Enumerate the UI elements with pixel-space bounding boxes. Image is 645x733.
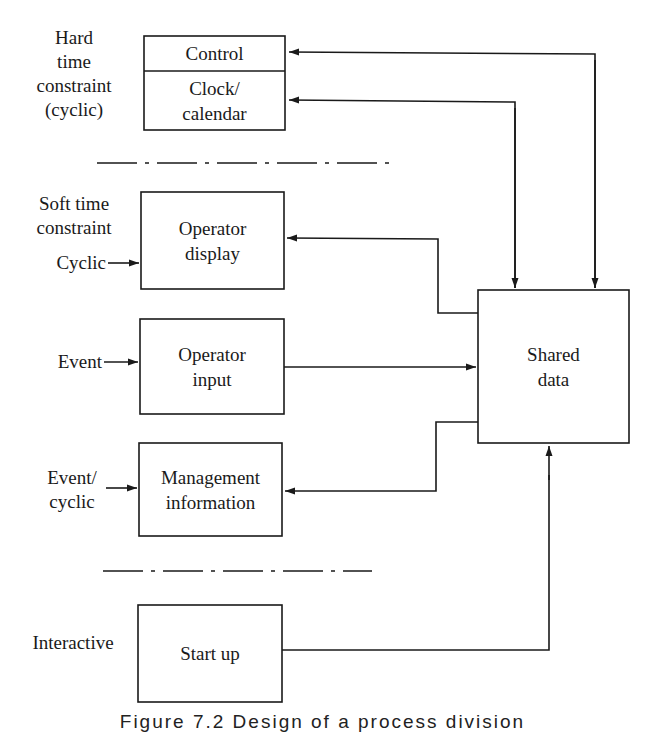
group-label-interactive: Interactive: [18, 631, 128, 655]
input-label-event: Event: [38, 350, 102, 374]
box-label-operator-input: Operator input: [140, 319, 284, 414]
edge-shared-to-management: [285, 422, 478, 491]
edge-shared-to-clock: [289, 100, 515, 288]
box-label-operator-display: Operator display: [141, 192, 284, 289]
figure-caption: Figure 7.2 Design of a process division: [0, 711, 645, 733]
box-label-management-information: Management information: [139, 443, 282, 536]
edge-shared-to-control: [289, 52, 595, 288]
box-label-clock-calendar: Clock/ calendar: [144, 71, 285, 130]
box-label-control: Control: [144, 36, 285, 71]
box-label-start-up: Start up: [138, 605, 282, 702]
box-label-shared-data: Shared data: [478, 290, 629, 443]
group-label-hard: Hard time constraint (cyclic): [22, 26, 126, 122]
input-label-cyclic: Cyclic: [40, 251, 106, 275]
input-label-event-cyclic: Event/ cyclic: [38, 466, 106, 514]
edge-shared-to-operator-display: [287, 238, 478, 313]
edge-startup-line: [282, 475, 549, 650]
group-label-soft: Soft time constraint: [22, 192, 126, 240]
